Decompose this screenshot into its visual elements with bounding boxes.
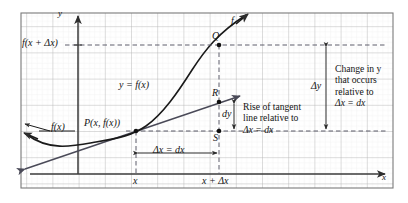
x-plus-delta-x-tick-label: x + Δx — [202, 176, 229, 187]
f-x-plus-delta-x-label: f(x + Δx) — [22, 38, 58, 49]
delta-y-label: Δy — [311, 81, 321, 92]
dy-label: dy — [222, 109, 231, 120]
y-equals-f-x-label: y = f(x) — [119, 80, 149, 91]
f-of-x-label: f(x) — [51, 122, 65, 133]
change-in-y-line-2: that occurs — [335, 74, 381, 85]
change-in-y-line-1: Change in y — [335, 63, 381, 74]
delta-x-equals-dx-label: Δx = dx — [153, 145, 185, 156]
point-S-label: S — [213, 133, 218, 144]
point-P — [134, 129, 139, 134]
derivative-differential-figure: y x f(x + Δx) y = f(x) f(x) f P(x, f(x))… — [0, 0, 408, 203]
point-P-label: P(x, f(x)) — [84, 118, 120, 129]
point-Q-label: Q — [212, 31, 219, 42]
point-Q — [217, 43, 222, 48]
change-in-y-line-4: Δx = dx — [335, 97, 381, 108]
tangent-rise-annotation: Rise of tangent line relative to Δx = dx — [243, 101, 301, 135]
point-R — [217, 100, 222, 105]
x-tick-label: x — [133, 176, 137, 187]
curve-f-label: f — [231, 16, 234, 27]
x-axis-label: x — [382, 173, 386, 182]
change-in-y-line-3: relative to — [335, 86, 381, 97]
tangent-rise-line-3: Δx = dx — [243, 124, 301, 135]
tangent-rise-line-2: line relative to — [243, 112, 301, 123]
change-in-y-annotation: Change in y that occurs relative to Δx =… — [335, 63, 381, 109]
y-axis-label: y — [58, 9, 62, 18]
tangent-rise-line-1: Rise of tangent — [243, 101, 301, 112]
point-R-label: R — [212, 88, 218, 99]
